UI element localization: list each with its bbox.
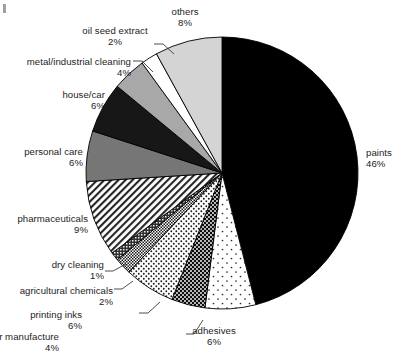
slice-label-name: oil seed extract xyxy=(82,25,147,36)
slice-label-name: others xyxy=(172,6,199,17)
slice-label-name: paints xyxy=(366,147,392,158)
slice-label-name: pharmaceuticals xyxy=(17,213,88,224)
slice-label-name: agricultural chemicals xyxy=(20,285,113,296)
slice-label-printing-inks: printing inks6% xyxy=(30,309,82,332)
slice-label-percent: 6% xyxy=(30,320,82,331)
slice-label-percent: 1% xyxy=(52,270,104,281)
slice-label-percent: 6% xyxy=(192,336,236,347)
slice-label-name: dry cleaning xyxy=(52,259,104,270)
slice-label-house-car: house/car6% xyxy=(62,89,105,112)
slice-label-percent: 4% xyxy=(0,342,59,353)
slice-label-percent: 46% xyxy=(366,158,392,169)
slice-label-agricultural-chemicals: agricultural chemicals2% xyxy=(20,285,113,308)
slice-label-rubber-polymer-manufacture: rubber/polymer manufacture4% xyxy=(0,331,59,354)
slice-label-name: metal/industrial cleaning xyxy=(27,56,131,67)
leader-line-printing-inks xyxy=(139,302,160,313)
slice-label-dry-cleaning: dry cleaning1% xyxy=(52,259,104,282)
slice-label-percent: 9% xyxy=(17,224,88,235)
slice-label-paints: paints46% xyxy=(366,147,392,170)
pie-chart-figure: paints46%adhesives6%rubber/polymer manuf… xyxy=(0,0,407,360)
slice-label-oil-seed-extract: oil seed extract2% xyxy=(82,25,147,48)
slice-label-name: adhesives xyxy=(192,325,236,336)
leader-line-agricultural-chemicals xyxy=(114,281,133,289)
slice-label-percent: 6% xyxy=(24,157,83,168)
slice-label-percent: 2% xyxy=(20,296,113,307)
slice-label-percent: 4% xyxy=(27,67,131,78)
slice-label-adhesives: adhesives6% xyxy=(192,325,236,348)
slice-label-percent: 2% xyxy=(82,36,147,47)
slice-label-name: printing inks xyxy=(30,309,82,320)
slice-label-name: personal care xyxy=(24,146,83,157)
slice-label-name: rubber/polymer manufacture xyxy=(0,331,59,342)
slice-label-metal-industrial-cleaning: metal/industrial cleaning4% xyxy=(27,56,131,79)
slice-label-personal-care: personal care6% xyxy=(24,146,83,169)
slice-label-others: others8% xyxy=(172,6,199,29)
slice-label-name: house/car xyxy=(62,89,105,100)
slice-label-percent: 6% xyxy=(62,100,105,111)
slice-label-percent: 8% xyxy=(172,17,199,28)
slice-label-pharmaceuticals: pharmaceuticals9% xyxy=(17,213,88,236)
